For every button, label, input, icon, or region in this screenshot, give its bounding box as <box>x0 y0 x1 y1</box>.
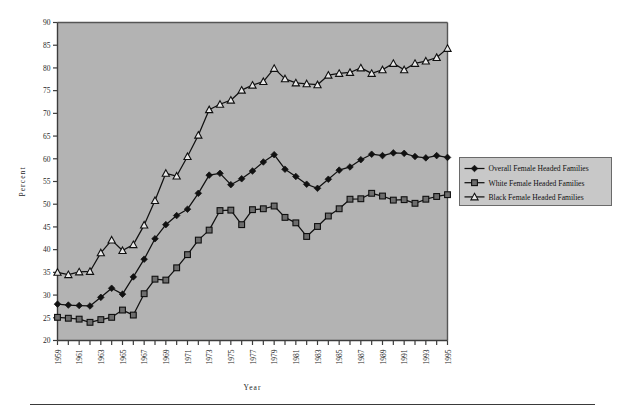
y-axis-tick-label: 90 <box>43 18 51 27</box>
data-point-square <box>163 277 169 283</box>
data-point-square <box>369 190 375 196</box>
data-point-square <box>206 227 212 233</box>
legend: Overall Female Headed FamiliesWhite Fema… <box>460 158 612 206</box>
x-axis-tick-label: 1983 <box>314 349 323 364</box>
y-axis-tick-label: 70 <box>43 109 51 118</box>
x-axis-tick-label: 1965 <box>119 349 128 364</box>
chart-figure: 2025303540455055606570758085901959196119… <box>0 0 625 420</box>
data-point-square <box>152 276 158 282</box>
x-axis-tick-label: 1973 <box>205 349 214 364</box>
legend-label-3: Black Female Headed Families <box>489 193 584 202</box>
data-point-square <box>358 196 364 202</box>
data-point-square <box>336 206 342 212</box>
y-axis-tick-label: 25 <box>43 314 51 323</box>
data-point-square <box>293 220 299 226</box>
x-axis-tick-label: 1963 <box>97 349 106 364</box>
data-point-square <box>174 265 180 271</box>
data-point-square <box>472 180 478 186</box>
x-axis-tick-label: 1975 <box>227 349 236 364</box>
x-axis-tick-label: 1959 <box>54 349 63 364</box>
data-point-square <box>98 317 104 323</box>
data-point-square <box>195 237 201 243</box>
data-point-square <box>120 307 126 313</box>
x-axis-tick-label: 1987 <box>357 349 366 364</box>
legend-label-2: White Female Headed Families <box>489 179 585 188</box>
data-point-square <box>217 208 223 214</box>
x-axis-title: Year <box>243 383 261 392</box>
legend-label-1: Overall Female Headed Families <box>489 164 589 173</box>
x-axis-tick-label: 1991 <box>400 349 409 364</box>
y-axis-tick-label: 60 <box>43 155 51 164</box>
y-axis-tick-label: 55 <box>43 177 51 186</box>
data-point-square <box>87 319 93 325</box>
data-point-square <box>65 315 71 321</box>
x-axis-tick-label: 1993 <box>422 349 431 364</box>
data-point-square <box>445 192 451 198</box>
data-point-square <box>423 196 429 202</box>
data-point-square <box>141 291 147 297</box>
y-axis-tick-label: 30 <box>43 291 51 300</box>
data-point-square <box>347 196 353 202</box>
x-axis-tick-label: 1967 <box>140 349 149 364</box>
x-axis-tick-label: 1985 <box>335 349 344 364</box>
data-point-square <box>325 213 331 219</box>
data-point-square <box>260 206 266 212</box>
x-axis-tick-label: 1969 <box>162 349 171 364</box>
x-axis-tick-label: 1971 <box>184 349 193 364</box>
x-axis-tick-label: 1989 <box>379 349 388 364</box>
y-axis-tick-label: 40 <box>43 245 51 254</box>
data-point-square <box>401 197 407 203</box>
data-point-square <box>130 312 136 318</box>
y-axis-title: Percent <box>18 166 27 196</box>
plot-area-background <box>58 23 448 341</box>
x-axis-tick-label: 1995 <box>444 349 453 364</box>
x-axis-tick-label: 1977 <box>249 349 258 364</box>
data-point-square <box>55 314 61 320</box>
data-point-square <box>239 222 245 228</box>
y-axis-tick-label: 80 <box>43 64 51 73</box>
y-axis-tick-label: 20 <box>43 336 51 345</box>
y-axis-tick-label: 50 <box>43 200 51 209</box>
data-point-square <box>315 224 321 230</box>
data-point-square <box>271 203 277 209</box>
data-point-square <box>250 207 256 213</box>
data-point-square <box>380 193 386 199</box>
data-point-square <box>390 197 396 203</box>
y-axis-tick-label: 75 <box>43 86 51 95</box>
page-bottom-rule <box>30 404 595 405</box>
data-point-square <box>412 200 418 206</box>
x-axis-tick-label: 1961 <box>75 349 84 364</box>
line-chart: 2025303540455055606570758085901959196119… <box>0 0 625 420</box>
x-axis-tick-label: 1981 <box>292 349 301 364</box>
y-axis-tick-label: 85 <box>43 41 51 50</box>
data-point-square <box>109 314 115 320</box>
y-axis-tick-label: 35 <box>43 268 51 277</box>
x-axis-tick-label: 1979 <box>270 349 279 364</box>
data-point-square <box>282 214 288 220</box>
y-axis-tick-label: 65 <box>43 132 51 141</box>
data-point-square <box>228 207 234 213</box>
data-point-square <box>304 234 310 240</box>
data-point-square <box>185 252 191 258</box>
data-point-square <box>434 194 440 200</box>
y-axis-tick-label: 45 <box>43 223 51 232</box>
data-point-square <box>76 316 82 322</box>
